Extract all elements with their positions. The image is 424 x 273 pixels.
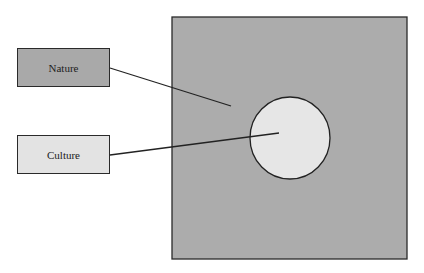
culture-region-circle	[250, 97, 330, 179]
culture-label: Culture	[47, 149, 80, 161]
culture-label-box: Culture	[17, 135, 110, 174]
nature-label-box: Nature	[17, 48, 110, 87]
nature-label: Nature	[49, 62, 79, 74]
